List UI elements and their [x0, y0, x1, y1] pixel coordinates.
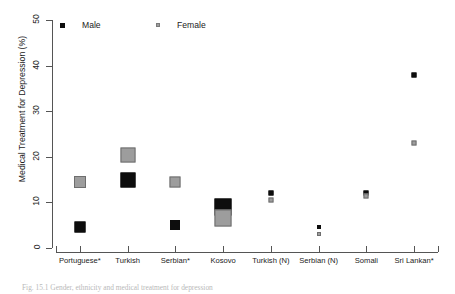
- y-tick-label: 0: [0, 242, 40, 252]
- y-tick-label: 30: [0, 105, 40, 115]
- x-axis-line: [56, 252, 438, 253]
- data-point-female: [412, 141, 417, 146]
- data-point-male: [74, 222, 85, 233]
- x-tick-label-portuguese: Portuguese*: [59, 256, 101, 265]
- y-tick-label: 50: [0, 14, 40, 24]
- y-tick-label: 40: [0, 60, 40, 70]
- data-point-male: [412, 72, 417, 77]
- x-tick-label-somali: Somali: [355, 256, 378, 265]
- y-tick-label: 20: [0, 151, 40, 161]
- data-point-female: [215, 210, 232, 227]
- data-point-female: [364, 193, 369, 198]
- x-tick-label-sri-lankan: Sri Lankan*: [394, 256, 433, 265]
- figure-caption: Fig. 15.1 Gender, ethnicity and medical …: [22, 283, 452, 292]
- figure-container: Medical Treatment for Depression (%) 010…: [0, 0, 455, 294]
- data-point-female: [170, 176, 181, 187]
- data-point-female: [317, 232, 321, 236]
- data-point-male: [120, 172, 135, 187]
- plot-area: [52, 20, 450, 248]
- data-point-female: [120, 147, 135, 162]
- y-tick-label: 10: [0, 196, 40, 206]
- legend-entry-male: Male: [60, 18, 101, 32]
- x-tick-label-serbian: Serbian*: [161, 256, 190, 265]
- y-tick-mark: [46, 248, 52, 249]
- gray-square-icon: [156, 23, 160, 27]
- x-tick-label-turkish: Turkish: [115, 256, 140, 265]
- legend-entry-female: Female: [156, 18, 206, 32]
- legend-label: Female: [177, 20, 206, 30]
- x-tick-label-kosovo: Kosovo: [210, 256, 235, 265]
- x-tick-label-serbian-n: Serbian (N): [299, 256, 338, 265]
- data-point-male: [268, 191, 273, 196]
- data-point-female: [268, 198, 273, 203]
- legend-label: Male: [82, 20, 101, 30]
- x-tick-label-turkish-n: Turkish (N): [252, 256, 289, 265]
- black-square-icon: [60, 23, 65, 28]
- data-point-male: [317, 225, 321, 229]
- data-point-female: [74, 176, 86, 188]
- data-point-male: [170, 220, 180, 230]
